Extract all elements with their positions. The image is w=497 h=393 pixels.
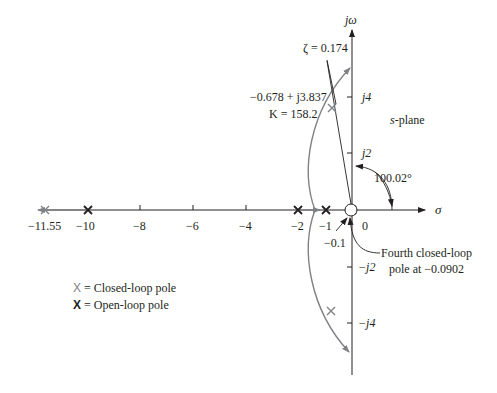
tick-minus-6: −6 [186,220,199,232]
open-loop-legend-label: = Open-loop pole [84,298,169,312]
tick-minus-4: −4 [239,220,252,232]
tick-minus-j4: −j4 [358,317,375,329]
gain-annotation: K = 158.2 [269,108,317,120]
imaginary-axis [347,30,352,375]
legend-closed-loop: X = Closed-loop pole [73,282,176,294]
tick-j4: j4 [362,91,371,103]
angle-annotation: 100.02° [374,172,412,184]
root-locus-diagram [0,0,497,393]
minus-0.1-pointer [336,218,347,231]
real-axis-label: σ [435,203,441,216]
dominant-pole-annotation: −0.678 + j3.837 [250,91,327,103]
s-plane-label: s-plane [390,114,425,126]
real-axis [40,205,425,210]
closed-loop-marker-icon: X [73,281,81,295]
zeta-line [327,61,352,210]
closed-loop-legend-label: = Closed-loop pole [84,281,176,295]
tick-minus-8: −8 [133,220,146,232]
imag-axis-label: jω [345,14,357,26]
zeta-annotation: ζ = 0.174 [303,42,348,54]
origin-circle [345,204,357,216]
tick-0: 0 [362,220,368,232]
fourth-pole-annotation-line2: pole at −0.0902 [389,263,464,275]
minus-0.1-annotation: −0.1 [324,237,346,249]
tick-minus-1: −1 [319,220,332,232]
tick-minus-j2: −j2 [358,261,375,273]
tick-minus-11.55: −11.55 [28,220,61,232]
fourth-pole-annotation-line1: Fourth closed-loop [381,247,472,259]
tick-j2: j2 [362,147,371,159]
legend-open-loop: X = Open-loop pole [73,299,169,311]
open-loop-marker-icon: X [73,298,81,312]
tick-minus-2: −2 [291,220,304,232]
tick-minus-10: −10 [76,220,95,232]
